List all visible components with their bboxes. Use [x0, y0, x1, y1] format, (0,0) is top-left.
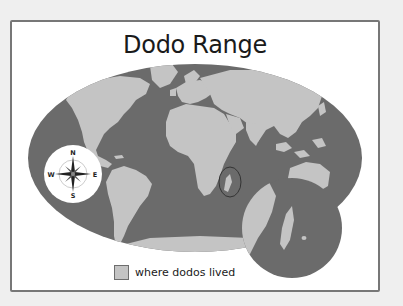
legend-swatch-dodo-range: [114, 265, 129, 280]
compass-w: W: [47, 171, 54, 179]
compass-rose: N S W E: [44, 145, 102, 203]
mauritius: [302, 236, 307, 240]
legend-label: where dodos lived: [135, 266, 235, 279]
compass-n: N: [70, 149, 75, 157]
compass-s: S: [71, 192, 76, 200]
world-map: N S W E: [0, 0, 403, 306]
page: Dodo Range: [0, 0, 403, 306]
inset-map: [242, 178, 342, 278]
map-legend: where dodos lived: [114, 265, 235, 280]
compass-e: E: [93, 171, 97, 179]
